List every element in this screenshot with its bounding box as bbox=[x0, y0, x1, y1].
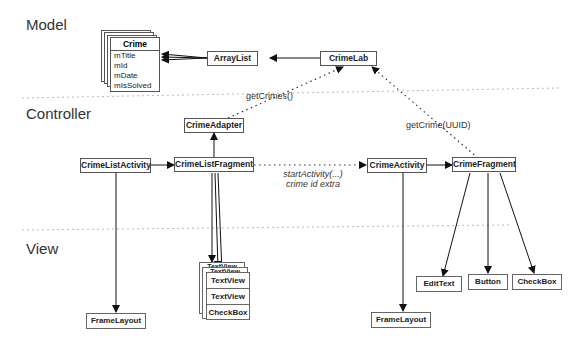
layer-label-view: View bbox=[26, 240, 58, 257]
crime-field-id: mId bbox=[111, 61, 159, 71]
crime-field-title: mTitle bbox=[111, 51, 159, 61]
list-item-textview-1: TextView bbox=[207, 273, 249, 289]
arrow-listfragment-item-2 bbox=[215, 173, 218, 268]
crimelistfragment-box: CrimeListFragment bbox=[174, 157, 254, 172]
crimefragment-box: CrimeFragment bbox=[452, 157, 516, 172]
annotation-get-crime: getCrime(UUID) bbox=[406, 120, 471, 130]
list-item-front: TextView TextView CheckBox bbox=[206, 272, 250, 320]
separator-controller-view bbox=[22, 225, 510, 230]
crime-class-box: Crime mTitle mId mDate mIsSolved bbox=[110, 37, 160, 92]
arrow-arraylist-crime-3 bbox=[162, 58, 207, 60]
crime-field-date: mDate bbox=[111, 71, 159, 81]
button-box: Button bbox=[468, 274, 508, 290]
checkbox-box: CheckBox bbox=[512, 274, 562, 290]
arraylist-box: ArrayList bbox=[207, 51, 258, 66]
framelayout-left-box: FrameLayout bbox=[86, 313, 146, 329]
annotation-start-activity: startActivity(...) bbox=[270, 169, 356, 179]
annotation-crime-id-extra: crime id extra bbox=[270, 179, 356, 189]
annotation-get-crimes: getCrimes() bbox=[246, 91, 293, 101]
arrow-crimefragment-edittext bbox=[443, 173, 470, 276]
crimeadapter-box: CrimeAdapter bbox=[184, 118, 244, 133]
layer-label-model: Model bbox=[26, 16, 67, 33]
crimeactivity-box: CrimeActivity bbox=[367, 158, 427, 173]
layer-label-controller: Controller bbox=[26, 105, 91, 122]
crimelistactivity-box: CrimeListActivity bbox=[80, 158, 151, 173]
list-item-textview-2: TextView bbox=[207, 289, 249, 305]
list-item-checkbox: CheckBox bbox=[207, 305, 249, 320]
arrow-crimefragment-crimelab bbox=[372, 67, 478, 158]
crimelab-box: CrimeLab bbox=[320, 51, 377, 66]
crime-field-issolved: mIsSolved bbox=[111, 81, 159, 91]
arrow-crimefragment-checkbox bbox=[500, 173, 534, 273]
framelayout-right-box: FrameLayout bbox=[371, 312, 431, 328]
arrow-listfragment-item-3 bbox=[218, 173, 222, 273]
crime-class-title: Crime bbox=[111, 38, 159, 51]
edittext-box: EditText bbox=[416, 276, 462, 292]
